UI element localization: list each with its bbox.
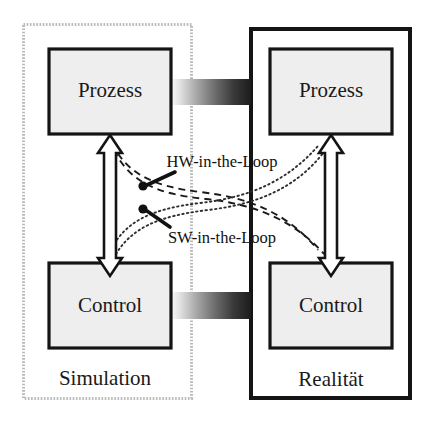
box-sim-prozess-label: Prozess xyxy=(78,78,142,102)
connector-control-gradient-bar xyxy=(170,292,251,319)
box-sim-prozess: Prozess xyxy=(49,49,171,134)
container-simulation-label: Simulation xyxy=(59,366,152,390)
hw-in-the-loop-label: HW-in-the-Loop xyxy=(167,152,278,171)
box-real-prozess-label: Prozess xyxy=(299,78,363,102)
sw-in-the-loop-marker-dot xyxy=(138,204,147,213)
diagram-canvas: Prozess Prozess Control Control xyxy=(0,0,433,427)
box-sim-control-label: Control xyxy=(78,293,142,317)
box-real-control-label: Control xyxy=(299,293,363,317)
box-real-prozess: Prozess xyxy=(270,49,392,134)
hw-in-the-loop-marker-dot xyxy=(138,181,147,190)
diagram-svg: Prozess Prozess Control Control xyxy=(0,0,433,427)
container-realitaet-label: Realität xyxy=(298,367,363,391)
sw-in-the-loop-label: SW-in-the-Loop xyxy=(168,228,276,247)
connector-prozess-gradient-bar xyxy=(170,79,251,105)
